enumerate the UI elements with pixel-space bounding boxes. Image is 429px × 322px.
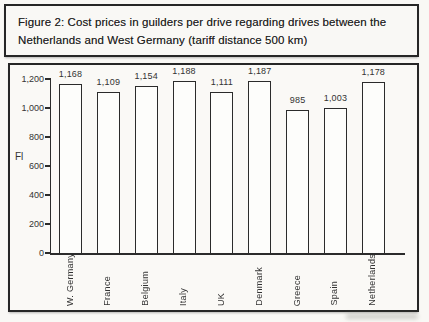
- y-axis-tick-label: 200: [10, 218, 44, 230]
- bar-value-label: 1,003: [313, 93, 357, 103]
- bar-greece: [286, 110, 309, 254]
- bar-value-label: 1,111: [200, 77, 244, 87]
- bar-value-label: 1,188: [162, 66, 206, 76]
- bar-france: [97, 92, 120, 254]
- figure-page: Figure 2: Cost prices in guilders per dr…: [0, 0, 429, 322]
- y-axis-tick-label: 600: [10, 160, 44, 172]
- bar-denmark: [248, 81, 271, 255]
- y-axis-line: [50, 79, 52, 253]
- y-axis-tick-label: 1,000: [10, 102, 44, 114]
- y-axis-tick-label: 0: [10, 247, 44, 259]
- category-label: W. Germany: [65, 253, 75, 306]
- category-label: UK: [216, 293, 226, 306]
- category-label: Netherlands: [367, 254, 377, 306]
- bar-italy: [173, 81, 196, 255]
- category-label: Italy: [178, 288, 188, 306]
- bar-value-label: 1,187: [238, 66, 282, 76]
- y-axis-tick-label: 1,200: [10, 73, 44, 85]
- bar-value-label: 1,178: [351, 67, 395, 77]
- category-label: France: [102, 276, 112, 306]
- y-axis-tick-label: 800: [10, 131, 44, 143]
- bar-uk: [210, 92, 233, 255]
- bar-w-germany: [59, 84, 82, 255]
- figure-title-box: Figure 2: Cost prices in guilders per dr…: [4, 4, 419, 57]
- bar-belgium: [135, 86, 158, 255]
- bar-chart-plot: 02004006008001,0001,2001,168W. Germany1,…: [10, 65, 417, 310]
- category-label: Denmark: [254, 267, 264, 306]
- category-label: Greece: [292, 275, 302, 306]
- figure-title: Figure 2: Cost prices in guilders per dr…: [18, 13, 405, 49]
- scan-artifact: [346, 314, 418, 319]
- bar-netherlands: [362, 82, 385, 254]
- y-axis-tick-label: 400: [10, 189, 44, 201]
- chart-box: Fl 02004006008001,0001,2001,168W. German…: [8, 63, 419, 312]
- category-label: Spain: [329, 281, 339, 306]
- category-label: Belgium: [140, 271, 150, 306]
- bar-spain: [324, 108, 347, 255]
